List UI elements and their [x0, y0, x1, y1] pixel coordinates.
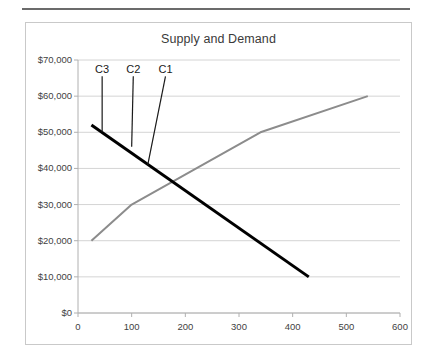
y-axis-label-50000: $50,000 — [10, 126, 72, 137]
x-axis-label-100: 100 — [117, 321, 147, 332]
x-axis-label-600: 600 — [385, 321, 415, 332]
x-axis-label-300: 300 — [224, 321, 254, 332]
x-axis-label-500: 500 — [331, 321, 361, 332]
annotation-label-c2: C2 — [122, 63, 144, 75]
y-axis-label-70000: $70,000 — [10, 54, 72, 65]
x-axis-label-0: 0 — [63, 321, 93, 332]
annotation-leader-lines — [102, 76, 165, 165]
gridlines — [78, 60, 400, 313]
leader-line-c2 — [132, 76, 134, 146]
series-line-demand — [91, 125, 308, 277]
x-axis-label-200: 200 — [170, 321, 200, 332]
y-axis-label-20000: $20,000 — [10, 235, 72, 246]
y-axis-label-0: $0 — [10, 307, 72, 318]
annotation-label-c3: C3 — [91, 63, 113, 75]
x-axis-label-400: 400 — [278, 321, 308, 332]
y-axis-label-10000: $10,000 — [10, 271, 72, 282]
annotation-label-c1: C1 — [154, 63, 176, 75]
y-axis-label-30000: $30,000 — [10, 199, 72, 210]
leader-line-c1 — [148, 76, 166, 165]
x-axis-tick-marks — [74, 60, 400, 317]
series-layer — [91, 96, 367, 277]
y-axis-label-40000: $40,000 — [10, 162, 72, 173]
y-axis-label-60000: $60,000 — [10, 90, 72, 101]
axis-lines — [78, 60, 400, 313]
